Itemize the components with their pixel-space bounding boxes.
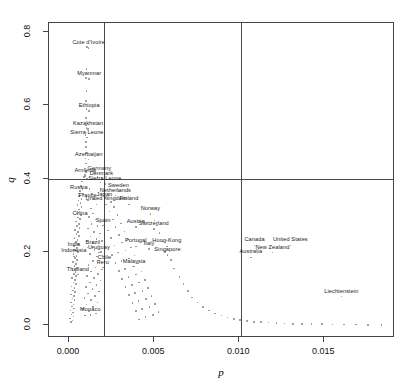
data-point <box>76 233 78 235</box>
y-tick-label: 0.4 <box>22 171 32 184</box>
data-point <box>355 324 357 326</box>
data-point <box>97 225 99 227</box>
data-point <box>71 286 73 288</box>
data-point <box>268 322 270 324</box>
data-point <box>128 294 130 296</box>
data-point <box>76 255 78 257</box>
data-point <box>112 219 114 221</box>
data-point <box>109 211 111 213</box>
data-point <box>89 282 91 284</box>
data-point <box>71 277 73 279</box>
point-label: Myanmar <box>77 71 101 77</box>
data-point <box>94 295 96 297</box>
data-point <box>128 276 130 278</box>
x-tick-label: 0.005 <box>142 346 165 356</box>
data-point <box>85 141 87 143</box>
point-label: Finland <box>119 197 138 203</box>
point-label: Sierra Leone <box>88 176 121 182</box>
data-point <box>311 323 313 325</box>
data-point <box>233 318 235 320</box>
data-point <box>74 287 76 289</box>
data-point <box>276 322 278 324</box>
data-point <box>87 293 89 295</box>
data-point <box>124 268 126 270</box>
data-point <box>97 302 99 304</box>
data-point <box>191 297 193 299</box>
data-point <box>253 321 255 323</box>
data-point <box>75 263 77 265</box>
data-point <box>75 221 77 223</box>
y-tick-label: 0.8 <box>22 25 32 38</box>
data-point <box>99 233 101 235</box>
data-point <box>77 204 79 206</box>
data-point <box>250 257 252 259</box>
data-point <box>75 275 77 277</box>
data-point <box>86 275 88 277</box>
data-point <box>115 262 117 264</box>
data-point <box>91 223 93 225</box>
data-point <box>80 202 82 204</box>
data-point <box>115 226 117 228</box>
point-label: Monaco <box>80 307 101 313</box>
data-point <box>98 291 100 293</box>
data-point <box>90 299 92 301</box>
data-point <box>85 117 87 119</box>
data-point <box>84 297 86 299</box>
data-point <box>88 78 90 80</box>
data-point <box>74 237 76 239</box>
data-point <box>88 110 90 112</box>
data-point <box>74 291 76 293</box>
data-point <box>90 271 92 273</box>
data-point <box>135 274 137 276</box>
data-point <box>134 255 136 257</box>
data-point <box>118 270 120 272</box>
data-point <box>100 251 102 253</box>
point-label: United States <box>273 238 308 244</box>
y-tick-label: 0.0 <box>22 318 32 331</box>
data-point <box>133 266 135 268</box>
point-label: Switzerland <box>139 221 169 227</box>
point-label: Indonesia <box>61 249 86 255</box>
point-label: Peru <box>97 260 109 266</box>
data-point <box>78 200 80 202</box>
data-point <box>69 318 71 320</box>
data-point <box>145 298 147 300</box>
data-point <box>290 245 292 247</box>
point-label: Malaysia <box>123 259 146 265</box>
data-point <box>113 206 115 208</box>
data-point <box>77 231 79 233</box>
data-point <box>95 267 97 269</box>
data-point <box>120 223 122 225</box>
data-point <box>76 259 78 261</box>
data-point <box>85 163 87 165</box>
data-point <box>78 223 80 225</box>
data-point <box>79 227 81 229</box>
data-point <box>153 228 155 230</box>
data-point <box>74 279 76 281</box>
data-point <box>70 310 72 312</box>
y-tick-label: 0.2 <box>22 245 32 258</box>
data-point <box>131 284 133 286</box>
data-point <box>100 280 102 282</box>
data-point <box>167 254 169 256</box>
scatter-plot-figure: q p 0.0000.0050.0100.015 0.00.20.40.60.8… <box>0 0 411 388</box>
point-label: Singapore <box>154 247 180 253</box>
data-point <box>89 188 91 190</box>
data-point <box>145 316 147 318</box>
data-point <box>125 286 127 288</box>
data-point <box>246 320 248 322</box>
point-label: Hong-Kong <box>152 239 181 245</box>
data-point <box>71 314 73 316</box>
data-point <box>88 47 90 49</box>
data-point <box>96 284 98 286</box>
data-point <box>105 204 107 206</box>
data-point <box>135 226 137 228</box>
plot-area: Cote d'IvoireMyanmarEthiopiaKazakhstanSi… <box>49 23 393 336</box>
point-label: Spain <box>96 218 111 224</box>
data-point <box>179 276 181 278</box>
data-point <box>101 240 103 242</box>
data-point <box>154 303 156 305</box>
data-point <box>90 314 92 316</box>
data-point <box>124 231 126 233</box>
data-point <box>150 213 152 215</box>
